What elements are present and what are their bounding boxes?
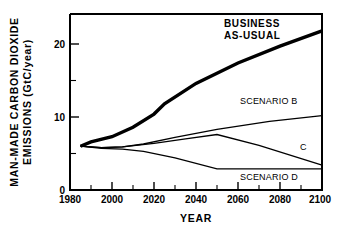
emissions-line-chart: 0 10 20 1980 2000 2020 2040 2060 [0, 0, 348, 245]
annotation-as-usual: AS-USUAL [224, 30, 280, 41]
x-tick-label-2040: 2040 [185, 194, 208, 205]
annotation-scenario-c: C [300, 142, 307, 152]
series-line-scenario-c [81, 135, 323, 166]
x-tick-label-1980: 1980 [59, 194, 82, 205]
annotation-scenario-d: SCENARIO D [240, 172, 298, 182]
x-tick-label-2020: 2020 [143, 194, 166, 205]
y-axis-title-line1: MAN-MADE CARBON DIOXIDE [8, 17, 20, 187]
x-tick-label-2100: 2100 [309, 194, 332, 205]
annotation-scenario-b: SCENARIO B [240, 96, 298, 106]
x-axis-title: YEAR [180, 212, 212, 224]
chart-page: 0 10 20 1980 2000 2020 2040 2060 [0, 0, 348, 245]
x-tick-label-2000: 2000 [101, 194, 124, 205]
x-tick-label-2080: 2080 [269, 194, 292, 205]
y-axis-tick-labels: 0 10 20 [54, 39, 66, 196]
x-tick-label-2060: 2060 [227, 194, 250, 205]
x-axis-ticks [70, 182, 322, 190]
series-line-business-as-usual [81, 31, 323, 146]
series-line-scenario-b [81, 116, 323, 148]
y-tick-label-10: 10 [54, 112, 66, 123]
y-tick-label-20: 20 [54, 39, 66, 50]
y-axis-ticks [70, 44, 79, 190]
x-axis-tick-labels: 1980 2000 2020 2040 2060 2080 2100 [59, 194, 332, 205]
series-line-scenario-d [81, 146, 323, 169]
annotation-business: BUSINESS [224, 18, 280, 29]
y-axis-title-line2: EMISSIONS (GtC/year) [21, 39, 33, 165]
